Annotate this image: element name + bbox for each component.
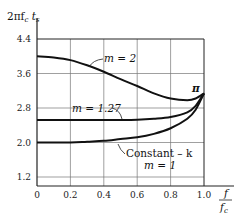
m127-label: m = 1.27 — [72, 102, 121, 114]
x-tick-label: 1.0 — [197, 190, 212, 200]
m1-label: m = 1 — [144, 159, 176, 171]
x-axis-label: f fc — [219, 187, 232, 215]
m2-label: m = 2 — [104, 52, 136, 64]
constk-label: Constant – k — [126, 147, 193, 159]
x-tick-label: 0.6 — [130, 190, 145, 200]
x-tick-label: 0 — [34, 190, 40, 200]
pi-label: π — [191, 82, 200, 94]
constk-arrow — [118, 144, 125, 154]
y-axis-label: 2πfc ts — [7, 10, 40, 24]
y-tick-label: 2.8 — [17, 103, 32, 113]
svg-text:fc: fc — [219, 201, 228, 215]
y-tick-label: 2.0 — [17, 138, 32, 148]
curves — [37, 56, 204, 142]
y-tick-label: 4.4 — [17, 34, 32, 44]
svg-text:f: f — [223, 187, 230, 199]
x-tick-label: 0.8 — [163, 190, 178, 200]
y-tick-label: 3.6 — [17, 69, 32, 79]
y-tick-label: 1.2 — [17, 172, 31, 182]
x-tick-label: 0.2 — [63, 190, 77, 200]
chart: 00.20.40.60.81.01.22.02.83.64.4 2πfc ts … — [0, 0, 248, 223]
x-tick-label: 0.4 — [97, 190, 112, 200]
